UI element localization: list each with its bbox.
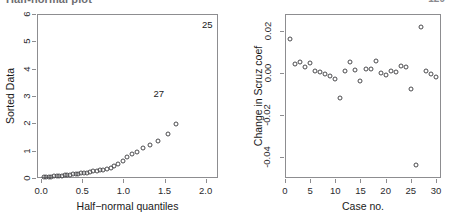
y-tick-label: 2 bbox=[21, 121, 32, 126]
x-tick bbox=[123, 179, 124, 183]
data-point bbox=[383, 72, 388, 77]
y-tick-label: 0 bbox=[21, 175, 32, 180]
data-point bbox=[174, 121, 179, 126]
x-tick-label: 25 bbox=[406, 185, 417, 196]
y-tick-label: 0.02 bbox=[262, 22, 273, 41]
x-tick bbox=[436, 179, 437, 183]
x-tick-label: 1.5 bbox=[158, 185, 171, 196]
data-point bbox=[433, 75, 438, 80]
y-axis-title-right: Change in Scruz coef bbox=[252, 46, 264, 146]
x-tick-label: 15 bbox=[355, 185, 366, 196]
data-point bbox=[403, 64, 408, 69]
y-tick bbox=[32, 123, 36, 124]
y-tick bbox=[32, 96, 36, 97]
x-tick bbox=[335, 179, 336, 183]
point-label-27: 27 bbox=[153, 88, 164, 99]
data-point bbox=[368, 67, 373, 72]
data-point bbox=[130, 152, 135, 157]
data-point bbox=[338, 96, 343, 101]
point-label-25: 25 bbox=[202, 19, 213, 30]
x-tick bbox=[206, 179, 207, 183]
figure-two-panel-diagnostics: Half-normal plot 129 0.00.51.01.52.00123… bbox=[0, 0, 449, 222]
x-tick-label: 5 bbox=[308, 185, 313, 196]
x-tick bbox=[285, 179, 286, 183]
y-axis-title-left: Sorted Data bbox=[4, 68, 16, 124]
data-point bbox=[165, 132, 170, 137]
x-tick bbox=[360, 179, 361, 183]
data-point bbox=[148, 142, 153, 147]
x-tick bbox=[386, 179, 387, 183]
page-number: 129 bbox=[428, 0, 445, 4]
x-tick bbox=[310, 179, 311, 183]
x-tick bbox=[411, 179, 412, 183]
data-point bbox=[348, 60, 353, 65]
y-tick bbox=[280, 115, 284, 116]
data-point bbox=[373, 59, 378, 64]
data-point bbox=[333, 77, 338, 82]
y-tick bbox=[32, 14, 36, 15]
x-tick-label: 0 bbox=[282, 185, 287, 196]
y-tick bbox=[280, 31, 284, 32]
y-tick-label: 5 bbox=[21, 39, 32, 44]
data-point bbox=[418, 24, 423, 29]
data-point bbox=[308, 61, 313, 66]
data-point bbox=[120, 159, 125, 164]
y-tick-label: 1 bbox=[21, 148, 32, 153]
y-tick-label: 4 bbox=[21, 66, 32, 71]
y-tick bbox=[280, 73, 284, 74]
data-point bbox=[413, 163, 418, 168]
x-tick-label: 30 bbox=[431, 185, 442, 196]
data-point bbox=[141, 146, 146, 151]
y-tick bbox=[32, 178, 36, 179]
y-tick bbox=[32, 151, 36, 152]
data-point bbox=[298, 60, 303, 65]
y-tick-label: 3 bbox=[21, 93, 32, 98]
y-tick bbox=[32, 41, 36, 42]
data-point bbox=[358, 79, 363, 84]
y-tick bbox=[280, 157, 284, 158]
x-tick-label: 20 bbox=[380, 185, 391, 196]
data-point bbox=[353, 67, 358, 72]
x-tick bbox=[165, 179, 166, 183]
data-point bbox=[393, 69, 398, 74]
data-point bbox=[135, 150, 140, 155]
data-point bbox=[408, 86, 413, 91]
x-tick-label: 10 bbox=[330, 185, 341, 196]
y-tick-label: -0.04 bbox=[261, 146, 272, 168]
data-point bbox=[156, 138, 161, 143]
x-tick-label: 1.0 bbox=[117, 185, 130, 196]
y-tick bbox=[32, 69, 36, 70]
y-tick-label: 6 bbox=[21, 11, 32, 16]
x-tick-label: 2.0 bbox=[199, 185, 212, 196]
x-tick-label: 0.5 bbox=[76, 185, 89, 196]
x-tick bbox=[82, 179, 83, 183]
data-point bbox=[343, 68, 348, 73]
plot-frame-right bbox=[285, 14, 441, 178]
data-point bbox=[288, 37, 293, 42]
data-point bbox=[303, 64, 308, 69]
x-axis-title-right: Case no. bbox=[342, 200, 384, 212]
x-tick-label: 0.0 bbox=[35, 185, 48, 196]
cutoff-caption-text: Half-normal plot bbox=[6, 0, 92, 5]
x-axis-title-left: Half−normal quantiles bbox=[77, 200, 179, 212]
